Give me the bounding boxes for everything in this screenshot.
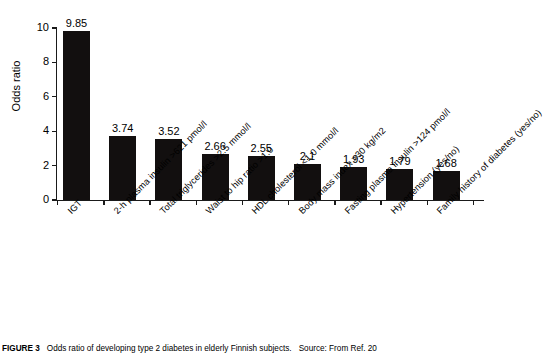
x-tick-mark bbox=[242, 201, 243, 205]
bar-value-label: 3.74 bbox=[100, 122, 146, 134]
y-tick-label: 2 bbox=[23, 160, 49, 171]
figure-caption: FIGURE 3Odds ratio of developing type 2 … bbox=[2, 344, 495, 354]
x-tick-mark bbox=[334, 201, 335, 205]
y-axis-title: Odds ratio bbox=[10, 46, 22, 126]
y-tick-mark bbox=[52, 165, 56, 166]
caption-source: Source: From Ref. 20 bbox=[299, 344, 377, 353]
y-tick-label: 0 bbox=[23, 194, 49, 205]
x-tick-mark bbox=[103, 201, 104, 205]
bar[interactable] bbox=[63, 31, 90, 200]
y-tick-mark bbox=[52, 62, 56, 63]
x-tick-mark bbox=[149, 201, 150, 205]
caption-label: FIGURE 3 bbox=[2, 344, 40, 353]
x-tick-mark bbox=[196, 201, 197, 205]
y-tick-label: 10 bbox=[23, 22, 49, 33]
y-tick-label: 8 bbox=[23, 56, 49, 67]
caption-text: Odds ratio of developing type 2 diabetes… bbox=[47, 344, 292, 353]
x-tick-mark bbox=[427, 201, 428, 205]
x-tick-mark bbox=[57, 201, 58, 205]
y-tick-label: 6 bbox=[23, 91, 49, 102]
y-tick-label: 4 bbox=[23, 125, 49, 136]
y-tick-mark bbox=[52, 131, 56, 132]
bar-column[interactable]: 9.85 bbox=[63, 28, 90, 200]
x-tick-mark bbox=[473, 201, 474, 205]
y-tick-mark bbox=[52, 199, 56, 200]
y-tick-mark bbox=[52, 96, 56, 97]
bar-column[interactable]: 3.74 bbox=[109, 28, 136, 200]
bars-group: 9.853.743.522.662.552.11.931.791.68 bbox=[57, 28, 483, 200]
x-tick-mark bbox=[288, 201, 289, 205]
bar-value-label: 9.85 bbox=[54, 17, 100, 29]
x-tick-mark bbox=[380, 201, 381, 205]
